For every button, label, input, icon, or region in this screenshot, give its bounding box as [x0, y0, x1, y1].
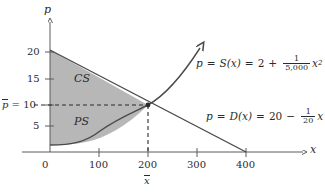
- equilibrium-price-label: p = 10: [2, 99, 36, 110]
- consumer-surplus-label: CS: [74, 73, 90, 84]
- y-tick-label-15: 15: [27, 74, 40, 84]
- equilibrium-quantity-label: x: [144, 175, 150, 186]
- demand-equals-2: =: [256, 111, 265, 122]
- supply-exponent: 2: [318, 60, 322, 67]
- y-tick-label-20: 20: [27, 47, 40, 57]
- x-tick-label-300: 300: [187, 160, 206, 170]
- producer-surplus-region: [50, 105, 148, 145]
- demand-variable: x: [317, 111, 323, 122]
- supply-constant: 2: [258, 58, 265, 69]
- x-tick-label-400: 400: [236, 160, 255, 170]
- supply-equals-2: =: [245, 58, 254, 69]
- demand-fraction-denominator: 20: [301, 116, 315, 125]
- demand-operator: −: [286, 111, 295, 122]
- price-equals-sign: =: [12, 99, 20, 110]
- demand-fraction-numerator: 1: [304, 108, 313, 116]
- p-axis-label: p: [44, 4, 51, 15]
- surplus-diagram: p x 20 15 5 p = 10 0 100 200 300 400 x C…: [0, 0, 325, 194]
- supply-fraction-denominator: 5,000: [283, 63, 310, 72]
- demand-coefficient-fraction: 1 20: [301, 108, 315, 125]
- demand-p-symbol: p: [206, 111, 213, 122]
- x-tick-label-0: 0: [42, 160, 48, 170]
- producer-surplus-label: PS: [74, 116, 89, 127]
- equilibrium-point: [146, 103, 151, 108]
- supply-operator: +: [268, 58, 277, 69]
- demand-constant: 20: [269, 111, 282, 122]
- equilibrium-price-value: 10: [23, 99, 36, 110]
- diagram-canvas: [0, 0, 325, 194]
- x-axis-label: x: [310, 144, 316, 155]
- x-tick-label-100: 100: [89, 160, 108, 170]
- supply-coefficient-fraction: 1 5,000: [283, 55, 310, 72]
- demand-equation: p = D(x) = 20 − 1 20 x: [206, 108, 323, 125]
- supply-p-symbol: p: [196, 58, 203, 69]
- x-bar-symbol: x: [144, 175, 150, 186]
- y-tick-label-5: 5: [33, 121, 39, 131]
- supply-equals-1: =: [207, 58, 216, 69]
- supply-function-name: S(x): [220, 58, 241, 69]
- supply-equation: p = S(x) = 2 + 1 5,000 x2: [196, 55, 322, 72]
- demand-function-name: D(x): [230, 111, 253, 122]
- x-tick-label-200: 200: [138, 160, 157, 170]
- demand-equals-1: =: [217, 111, 226, 122]
- supply-fraction-numerator: 1: [292, 55, 301, 63]
